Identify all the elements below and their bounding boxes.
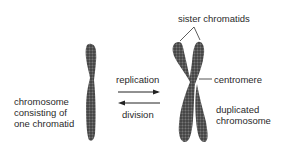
label-chromosome-line1: chromosome — [14, 96, 69, 107]
label-duplicated-line1: duplicated — [216, 104, 259, 115]
duplicated-chromosome — [173, 42, 208, 142]
label-division: division — [122, 109, 154, 120]
single-chromosome — [86, 44, 97, 141]
label-sister-chromatids: sister chromatids — [178, 13, 250, 24]
label-chromosome-line2: consisting of — [14, 107, 67, 118]
chromosome-diagram: sister chromatids chromosome consisting … — [0, 0, 294, 156]
label-duplicated-line2: chromosome — [216, 115, 271, 126]
label-replication: replication — [116, 74, 159, 85]
label-centromere: centromere — [214, 74, 262, 85]
division-arrow — [118, 101, 160, 106]
replication-arrow — [118, 90, 160, 95]
label-chromosome-line3: one chromatid — [14, 118, 74, 129]
sister-chromatids-pointer — [180, 27, 200, 41]
